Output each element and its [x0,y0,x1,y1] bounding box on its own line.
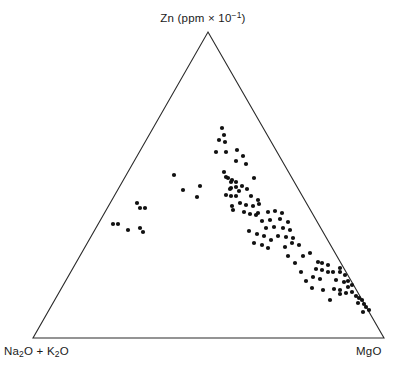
scatter-point [231,208,235,212]
scatter-point [260,243,264,247]
scatter-point [280,211,284,215]
scatter-point [138,206,142,210]
scatter-point [138,226,142,230]
scatter-point [235,148,239,152]
scatter-point [224,193,228,197]
scatter-point [338,288,342,292]
scatter-point [269,238,273,242]
ternary-plot-canvas [0,0,406,369]
scatter-point [262,234,266,238]
scatter-point [234,194,238,198]
scatter-point [264,226,268,230]
scatter-point [228,187,232,191]
left-label-a: Na [4,345,19,357]
scatter-point [172,173,176,177]
scatter-point [268,218,272,222]
scatter-point [116,222,120,226]
scatter-point [290,241,294,245]
scatter-point [293,261,297,265]
scatter-point [304,279,308,283]
scatter-point [342,280,346,284]
ternary-diagram-figure: Zn (ppm × 10−1) Na2O + K2O MgO [0,0,406,369]
scatter-point [230,178,234,182]
scatter-point [260,219,264,223]
scatter-point [143,206,147,210]
scatter-point [278,217,282,221]
scatter-point [252,241,256,245]
scatter-point [255,232,259,236]
scatter-point [286,254,290,258]
scatter-point [217,138,221,142]
scatter-point [301,254,305,258]
scatter-point [248,212,252,216]
scatter-point [249,194,253,198]
scatter-point [244,203,248,207]
scatter-point [181,188,185,192]
scatter-point [229,194,233,198]
scatter-point [224,150,228,154]
scatter-point [361,310,365,314]
scatter-point [257,202,261,206]
scatter-point [234,185,238,189]
scatter-point [316,260,320,264]
scatter-point [256,211,260,215]
scatter-point [281,226,285,230]
scatter-point [237,189,241,193]
scatter-point [343,273,347,277]
scatter-point [283,245,287,249]
scatter-point [222,170,226,174]
scatter-point [291,236,295,240]
scatter-point [223,140,227,144]
bottom-right-axis-label: MgO [356,345,382,357]
scatter-point [288,228,292,232]
scatter-point [338,292,342,296]
scatter-point [311,275,315,279]
ternary-triangle-outline [33,32,384,338]
apex-label-unit-open: (ppm × 10 [178,12,232,24]
scatter-point [256,198,260,202]
scatter-point [326,270,330,274]
scatter-point [360,298,364,302]
scatter-point [272,225,276,229]
scatter-point [321,288,325,292]
scatter-point [214,150,218,154]
scatter-point [338,266,342,270]
scatter-point [334,278,338,282]
apex-label-element: Zn [160,12,174,24]
scatter-point [234,180,238,184]
scatter-point [111,222,115,226]
apex-label-exponent: −1 [232,10,242,20]
scatter-point [245,187,249,191]
scatter-point [241,154,245,158]
scatter-point [220,126,224,130]
scatter-point [234,159,238,163]
scatter-point [222,133,226,137]
scatter-point [338,270,342,274]
scatter-point [299,270,303,274]
scatter-point [198,184,202,188]
apex-axis-label: Zn (ppm × 10−1) [0,10,406,24]
scatter-point [242,210,246,214]
scatter-point [238,201,242,205]
scatter-points-group [111,126,371,314]
scatter-point [364,305,368,309]
scatter-point [141,230,145,234]
scatter-point [318,277,322,281]
left-label-b: O + K [24,345,55,357]
scatter-point [247,229,251,233]
scatter-point [135,201,139,205]
scatter-point [273,209,277,213]
scatter-point [328,298,332,302]
scatter-point [284,235,288,239]
scatter-point [266,246,270,250]
scatter-point [286,220,290,224]
scatter-point [251,204,255,208]
scatter-point [224,175,228,179]
scatter-point [314,267,318,271]
scatter-point [230,204,234,208]
apex-label-unit-close: ) [242,12,246,24]
scatter-point [331,270,335,274]
bottom-left-axis-label: Na2O + K2O [4,345,69,359]
scatter-point [310,286,314,290]
scatter-point [332,287,336,291]
